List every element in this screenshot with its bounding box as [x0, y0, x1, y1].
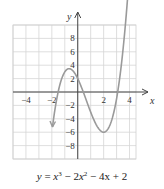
- y-tick-label: −2: [65, 100, 75, 110]
- x-tick-label: 2: [101, 95, 106, 105]
- y-tick-label: 2: [70, 74, 75, 84]
- equation-caption: y = x3 − 2x2 − 4x + 2: [36, 166, 128, 182]
- x-axis-label: x: [149, 95, 155, 106]
- y-tick-label: −4: [65, 114, 75, 124]
- x-tick-label: 4: [127, 95, 132, 105]
- y-tick-label: 8: [70, 33, 75, 43]
- y-tick-label: −6: [65, 127, 75, 137]
- y-tick-label: −8: [65, 141, 75, 151]
- cubic-function-graph: −4−2248642−2−4−6−8 x y y = x3 − 2x2 − 4x…: [0, 0, 164, 189]
- y-axis-label: y: [66, 11, 72, 22]
- x-tick-label: −4: [21, 95, 31, 105]
- y-tick-label: 6: [70, 47, 75, 57]
